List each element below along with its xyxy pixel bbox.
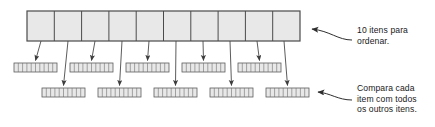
sorting-comparison-diagram: 10 itens paraordenar. Compara cadaitem c… xyxy=(0,0,435,127)
annotation-top: 10 itens paraordenar. xyxy=(357,25,408,46)
connector-arrow xyxy=(176,41,177,86)
connector-arrow xyxy=(120,41,123,86)
comparison-array xyxy=(266,88,309,97)
comparison-array xyxy=(126,63,169,72)
connector-arrow xyxy=(36,41,42,61)
annotation-top-line-2: ordenar. xyxy=(357,36,389,46)
connector-arrow xyxy=(284,41,288,86)
comparison-array xyxy=(70,63,113,72)
comparison-array xyxy=(238,63,281,72)
annotation-bottom-line-1: Compara cada xyxy=(357,83,415,93)
annotation-bottom: Compara cadaitem com todosos outros iten… xyxy=(357,83,417,115)
connector-arrow xyxy=(64,41,69,86)
top-callout-arrow xyxy=(312,29,352,40)
comparison-arrays-row-1 xyxy=(14,63,281,72)
annotation-top-line-1: 10 itens para xyxy=(357,25,408,35)
comparison-array xyxy=(42,88,85,97)
comparison-array xyxy=(154,88,197,97)
connector-arrow xyxy=(257,41,260,61)
comparison-array xyxy=(98,88,141,97)
connector-arrow xyxy=(230,41,232,86)
annotation-bottom-line-3: os outros itens. xyxy=(357,104,417,114)
comparison-array xyxy=(210,88,253,97)
connector-arrow xyxy=(148,41,150,61)
connector-arrow xyxy=(203,41,204,61)
comparison-array xyxy=(182,63,225,72)
main-array xyxy=(27,11,300,41)
annotation-bottom-line-2: item com todos xyxy=(357,94,417,104)
bottom-callout-arrow xyxy=(318,92,352,100)
comparison-array xyxy=(14,63,57,72)
comparison-arrays-row-2 xyxy=(42,88,309,97)
connector-arrow xyxy=(92,41,96,61)
